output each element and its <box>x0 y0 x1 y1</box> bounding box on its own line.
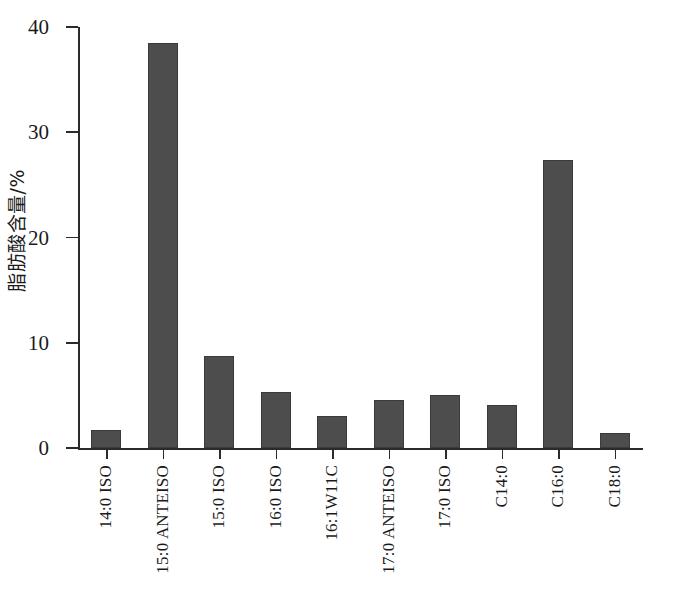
x-axis-tick-mark <box>615 448 616 459</box>
y-axis-tick-mark <box>66 237 78 239</box>
x-axis-tick-mark <box>219 448 220 459</box>
bar <box>374 400 404 448</box>
y-axis-tick-mark <box>66 26 78 28</box>
y-axis-tick-mark <box>66 447 78 449</box>
y-axis-tick-label: 40 <box>3 14 49 40</box>
x-axis-tick-mark <box>276 448 277 459</box>
x-axis-tick-label-text: 17:0 ANTEISO <box>379 465 399 574</box>
x-axis-tick-label-text: 15:0 ISO <box>209 465 229 528</box>
bar <box>430 395 460 448</box>
bar <box>204 356 234 448</box>
y-axis-tick-label: 0 <box>3 435 49 461</box>
x-axis-tick-label-text: 15:0 ANTEISO <box>153 465 173 574</box>
x-axis-tick-mark <box>163 448 164 459</box>
x-axis-tick-label-text: 16:1W11C <box>322 465 342 541</box>
plot-area: 010203040 14:0 ISO15:0 ANTEISO15:0 ISO16… <box>78 27 643 448</box>
bar-chart: 脂肪酸含量/% 010203040 14:0 ISO15:0 ANTEISO15… <box>0 0 683 599</box>
y-axis-tick-label: 30 <box>3 119 49 145</box>
x-axis-tick-label-text: C18:0 <box>605 465 625 508</box>
bar <box>543 160 573 448</box>
y-axis-tick-mark <box>66 131 78 133</box>
x-axis-tick-label-text: C16:0 <box>548 465 568 508</box>
bars-layer <box>78 27 643 448</box>
x-axis-tick-label-text: 14:0 ISO <box>96 465 116 528</box>
x-axis-tick-mark <box>445 448 446 459</box>
x-axis-tick-label-text: C14:0 <box>492 465 512 508</box>
bar <box>317 416 347 448</box>
bar <box>91 430 121 448</box>
y-axis-tick-mark <box>66 342 78 344</box>
x-axis-tick-mark <box>558 448 559 459</box>
x-axis-tick-mark <box>332 448 333 459</box>
bar <box>487 405 517 448</box>
y-axis-tick-label: 20 <box>3 225 49 251</box>
bar <box>600 433 630 448</box>
x-axis-tick-mark <box>502 448 503 459</box>
x-axis-tick-label-text: 17:0 ISO <box>435 465 455 528</box>
x-axis-tick-mark <box>389 448 390 459</box>
x-axis-tick-label-text: 16:0 ISO <box>266 465 286 528</box>
y-axis-tick-label: 10 <box>3 330 49 356</box>
x-axis-tick-mark <box>106 448 107 459</box>
bar <box>261 392 291 448</box>
bar <box>148 43 178 448</box>
